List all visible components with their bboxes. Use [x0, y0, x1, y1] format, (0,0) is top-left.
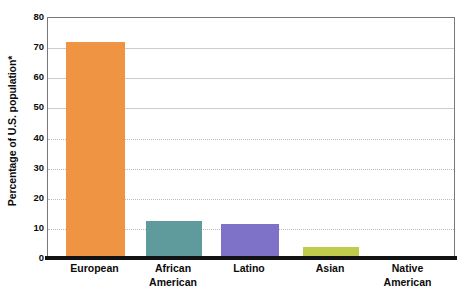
x-axis-label: NativeAmerican [362, 262, 454, 289]
y-tick-label: 20 [18, 193, 44, 203]
bar-chart-figure: Percentage of U.S. population* 010203040… [0, 0, 465, 300]
x-axis-label-line: Latino [203, 262, 295, 276]
x-axis-baseline [45, 256, 457, 260]
y-tick-label: 0 [18, 253, 44, 263]
bar [146, 221, 202, 259]
y-tick-label: 80 [18, 12, 44, 22]
y-axis-tick-labels: 01020304050607080 [18, 0, 44, 300]
y-tick-label: 30 [18, 163, 44, 173]
x-axis-label-line: American [127, 276, 219, 290]
y-tick-label: 40 [18, 133, 44, 143]
y-axis-title-text: Percentage of U.S. population* [6, 56, 18, 206]
x-axis-label-line: American [362, 276, 454, 290]
x-axis-label-line: Native [362, 262, 454, 276]
plot-area [47, 17, 455, 258]
bars-layer [48, 18, 456, 259]
x-axis-label: Latino [203, 262, 295, 276]
y-tick-label: 10 [18, 223, 44, 233]
bar [221, 224, 279, 259]
y-tick-label: 60 [18, 73, 44, 83]
bar [66, 42, 125, 259]
y-tick-label: 70 [18, 42, 44, 52]
y-tick-label: 50 [18, 103, 44, 113]
x-axis-category-labels: EuropeanAfricanAmericanLatinoAsianNative… [47, 262, 455, 300]
